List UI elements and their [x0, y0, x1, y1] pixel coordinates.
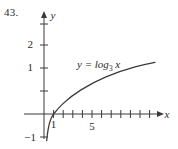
y-tick-label-2: 2 — [28, 38, 34, 50]
curve-equation-label: y = log3x — [76, 58, 120, 73]
x-axis-arrowhead — [157, 111, 164, 117]
figure-container: 43. — [0, 0, 178, 149]
log-curve — [47, 62, 155, 140]
x-tick-label-1: 1 — [51, 118, 57, 130]
curve-label-variable: x — [114, 58, 120, 70]
y-tick-label-1: 1 — [28, 61, 34, 73]
y-tick-label-neg1: −1 — [24, 131, 36, 143]
curve-label-base: 3 — [109, 64, 113, 73]
x-tick-label-5: 5 — [89, 120, 95, 132]
x-axis — [24, 111, 164, 117]
y-axis — [41, 11, 47, 139]
y-axis-arrowhead — [41, 11, 47, 18]
y-axis-name: y — [50, 9, 56, 21]
curve-label-prefix: y = log — [76, 58, 109, 70]
log-graph-plot: 2 1 −1 1 5 x y y = log3x — [0, 0, 178, 149]
x-axis-name: x — [164, 108, 170, 120]
